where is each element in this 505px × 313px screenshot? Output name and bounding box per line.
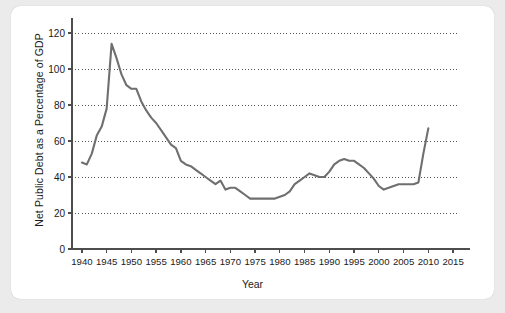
- svg-text:2005: 2005: [393, 256, 414, 267]
- svg-text:100: 100: [48, 64, 65, 75]
- svg-text:80: 80: [54, 100, 66, 111]
- x-axis: 1940194519501955196019651970197519801985…: [71, 249, 470, 267]
- y-axis-title: Net Public Debt as a Percentage of GDP: [33, 10, 45, 250]
- svg-text:1995: 1995: [343, 256, 364, 267]
- svg-text:120: 120: [48, 28, 65, 39]
- svg-text:1950: 1950: [121, 256, 142, 267]
- data-series-net-public-debt: [82, 44, 428, 199]
- svg-text:1955: 1955: [145, 256, 166, 267]
- svg-text:40: 40: [54, 172, 66, 183]
- chart-card: Net Public Debt as a Percentage of GDP Y…: [11, 6, 494, 299]
- svg-text:60: 60: [54, 136, 66, 147]
- svg-text:2000: 2000: [368, 256, 389, 267]
- gridlines: [72, 33, 458, 213]
- svg-text:1975: 1975: [244, 256, 265, 267]
- svg-text:1990: 1990: [319, 256, 340, 267]
- figure: Net Public Debt as a Percentage of GDP Y…: [11, 6, 494, 299]
- svg-text:1985: 1985: [294, 256, 315, 267]
- svg-text:1940: 1940: [71, 256, 92, 267]
- svg-text:1945: 1945: [96, 256, 117, 267]
- svg-text:1980: 1980: [269, 256, 290, 267]
- svg-text:1965: 1965: [195, 256, 216, 267]
- svg-text:2010: 2010: [418, 256, 439, 267]
- line-chart-plot: 020406080100120 194019451950195519601965…: [11, 6, 494, 299]
- svg-text:0: 0: [59, 244, 65, 255]
- svg-text:2015: 2015: [442, 256, 463, 267]
- svg-text:20: 20: [54, 208, 66, 219]
- x-axis-title: Year: [11, 278, 494, 290]
- svg-text:1960: 1960: [170, 256, 191, 267]
- svg-text:1970: 1970: [220, 256, 241, 267]
- y-axis: 020406080100120: [48, 18, 72, 255]
